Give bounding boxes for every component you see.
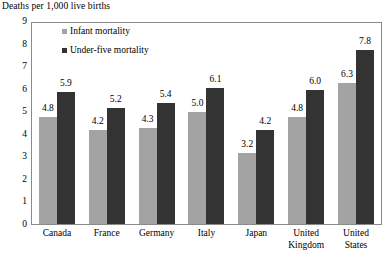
x-axis-label: Germany (133, 228, 181, 251)
bar-infant: 4.2 (89, 130, 107, 224)
bar-underfive: 5.2 (107, 108, 125, 224)
bar-value-label: 5.4 (160, 90, 172, 100)
bar-underfive: 7.8 (356, 50, 374, 224)
x-axis-labels: CanadaFranceGermanyItalyJapanUnitedKingd… (32, 228, 381, 251)
x-axis-label: UnitedKingdom (282, 228, 330, 251)
y-tick-label: 6 (22, 85, 27, 95)
bar-underfive: 4.2 (256, 130, 274, 224)
x-axis-label: Italy (182, 228, 230, 251)
y-tick-label: 2 (22, 175, 27, 185)
bar-underfive: 6.1 (206, 88, 224, 224)
x-axis-label-line: Germany (133, 228, 181, 240)
legend-item-infant-mortality: Infant mortality (62, 27, 149, 37)
x-axis-label-line: France (83, 228, 131, 240)
bar-group: 4.86.0 (288, 23, 324, 224)
legend-label-infant: Infant mortality (70, 27, 130, 37)
x-axis-label: France (83, 228, 131, 251)
x-axis-label-line: Italy (182, 228, 230, 240)
bar-underfive: 5.9 (57, 92, 75, 224)
bar-value-label: 6.1 (210, 75, 222, 85)
x-axis-label: Japan (232, 228, 280, 251)
bar-value-label: 4.2 (92, 117, 104, 127)
x-axis-label-line: United (282, 228, 330, 240)
y-tick-label: 4 (22, 130, 27, 140)
bar-value-label: 6.0 (309, 77, 321, 87)
bar-infant: 5.0 (188, 112, 206, 224)
bar-value-label: 4.3 (142, 115, 154, 125)
bar-infant: 3.2 (238, 153, 256, 224)
bar-infant: 4.8 (288, 117, 306, 224)
bar-infant: 4.3 (139, 128, 157, 224)
bar-value-label: 5.0 (192, 99, 204, 109)
x-axis-label-line: Kingdom (282, 240, 330, 252)
bar-chart: Deaths per 1,000 live births 0123456789 … (0, 0, 387, 274)
x-axis-label-line: Canada (33, 228, 81, 240)
bar-value-label: 4.2 (259, 117, 271, 127)
bar-group: 6.37.8 (338, 23, 374, 224)
y-tick-label: 3 (22, 153, 27, 163)
y-tick-label: 9 (22, 17, 27, 27)
y-tick-label: 5 (22, 107, 27, 117)
legend-swatch-icon-infant (62, 29, 67, 34)
bar-infant: 4.8 (39, 117, 57, 224)
y-tick-label: 7 (22, 62, 27, 72)
chart-title: Deaths per 1,000 live births (2, 1, 110, 11)
bar-group: 3.24.2 (238, 23, 274, 224)
chart-legend: Infant mortality Under-five mortality (62, 27, 149, 64)
legend-label-underfive: Under-five mortality (70, 46, 149, 56)
x-axis-label-line: States (332, 240, 380, 252)
bar-value-label: 5.2 (110, 95, 122, 105)
bar-value-label: 5.9 (60, 79, 72, 89)
legend-swatch-icon-underfive (62, 48, 67, 53)
bar-group: 5.06.1 (188, 23, 224, 224)
y-tick-label: 0 (22, 220, 27, 230)
bar-underfive: 5.4 (157, 103, 175, 224)
bar-underfive: 6.0 (306, 90, 324, 224)
x-axis-label-line: United (332, 228, 380, 240)
x-axis-label: UnitedStates (332, 228, 380, 251)
y-axis: 0123456789 (0, 22, 31, 226)
y-tick-label: 1 (22, 198, 27, 208)
legend-item-under-five-mortality: Under-five mortality (62, 46, 149, 56)
bar-value-label: 4.8 (291, 104, 303, 114)
bar-value-label: 4.8 (42, 104, 54, 114)
bar-value-label: 7.8 (359, 37, 371, 47)
x-axis-label: Canada (33, 228, 81, 251)
bar-infant: 6.3 (338, 83, 356, 224)
y-tick-label: 8 (22, 40, 27, 50)
x-axis-label-line: Japan (232, 228, 280, 240)
bar-value-label: 6.3 (341, 70, 353, 80)
bar-value-label: 3.2 (241, 140, 253, 150)
